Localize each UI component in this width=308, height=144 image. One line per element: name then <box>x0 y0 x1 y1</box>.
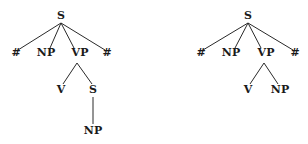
tree-node-np1: NP <box>222 46 240 59</box>
tree-node-s: S <box>244 9 252 22</box>
syntax-tree-diagram: S#NPVP#VSNP S#NPVP#VNP <box>0 0 308 144</box>
tree-node-np1: NP <box>37 46 55 59</box>
tree-node-h2: # <box>102 46 111 59</box>
tree-node-s2: S <box>89 83 97 96</box>
left-tree: S#NPVP#VSNP <box>11 9 111 137</box>
tree-edge <box>77 63 92 84</box>
tree-edge <box>250 63 264 84</box>
tree-edge <box>63 63 77 84</box>
tree-node-v: V <box>56 83 66 96</box>
tree-node-h1: # <box>11 46 20 59</box>
tree-node-vp: VP <box>71 46 89 59</box>
tree-node-h1: # <box>196 46 205 59</box>
tree-node-vp: VP <box>257 46 275 59</box>
tree-node-np2: NP <box>271 83 289 96</box>
tree-edge <box>264 63 278 84</box>
tree-node-h2: # <box>290 46 299 59</box>
tree-node-np2: NP <box>84 124 102 137</box>
right-tree: S#NPVP#VNP <box>196 9 299 96</box>
tree-node-v: V <box>243 83 253 96</box>
tree-node-s: S <box>57 9 65 22</box>
